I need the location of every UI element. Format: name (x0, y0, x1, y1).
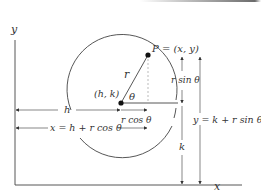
r-sin-label: r sin θ (171, 75, 200, 85)
center-label: (h, k) (94, 88, 120, 99)
circle-diagram: y x r θ P = (x, y) (h, k) r sin θ k y = … (0, 0, 261, 196)
h-dimension: h (16, 104, 120, 115)
k-label: k (179, 141, 185, 152)
x-axis-label: x (214, 180, 221, 193)
y-dimension: y = k + r sin θ (192, 57, 261, 184)
r-sin-dimension: r sin θ (171, 57, 200, 103)
x-equation-label: x = h + r cos θ (50, 122, 122, 133)
radius-label: r (124, 68, 130, 81)
k-dimension: k (179, 106, 185, 184)
center-dot (118, 100, 123, 105)
y-equation-label: y = k + r sin θ (192, 114, 261, 125)
r-cos-dimension: r cos θ (121, 110, 152, 125)
angle-label: θ (129, 91, 135, 102)
h-label: h (64, 104, 70, 115)
circle-arc-right (174, 108, 176, 118)
point-P-label: P = (x, y) (151, 43, 199, 54)
point-P-dot (145, 52, 150, 57)
r-cos-label: r cos θ (121, 115, 152, 125)
axes: y x (10, 23, 242, 193)
y-axis-label: y (10, 23, 18, 36)
